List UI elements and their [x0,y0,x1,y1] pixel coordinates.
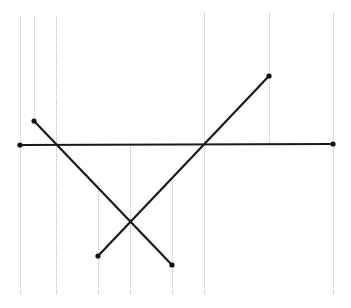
endpoint-dot-2 [31,118,36,123]
segment-horizontal [20,144,333,145]
endpoints [17,73,335,267]
endpoint-dot-5 [266,73,271,78]
segments [20,76,333,265]
segment-ascending [98,76,269,256]
sweep-line-diagram [0,0,351,308]
segment-descending [34,121,172,265]
endpoint-dot-0 [17,142,22,147]
endpoint-dot-1 [330,141,335,146]
sweep-lines [21,13,334,294]
endpoint-dot-3 [169,262,174,267]
endpoint-dot-4 [95,253,100,258]
